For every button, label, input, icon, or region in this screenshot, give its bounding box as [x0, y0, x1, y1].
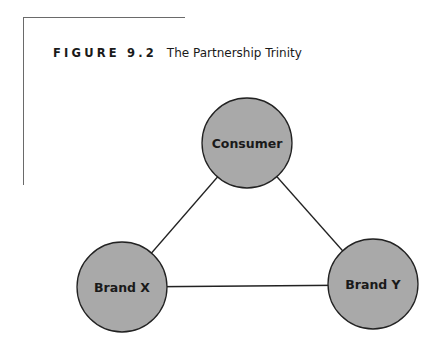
partnership-diagram: Consumer Brand X Brand Y [0, 0, 442, 358]
node-label-consumer: Consumer [212, 136, 284, 151]
node-label-brand-x: Brand X [94, 280, 150, 295]
node-label-brand-y: Brand Y [345, 277, 401, 292]
node-brand-x: Brand X [77, 242, 167, 332]
node-consumer: Consumer [202, 98, 292, 188]
node-brand-y: Brand Y [328, 239, 418, 329]
